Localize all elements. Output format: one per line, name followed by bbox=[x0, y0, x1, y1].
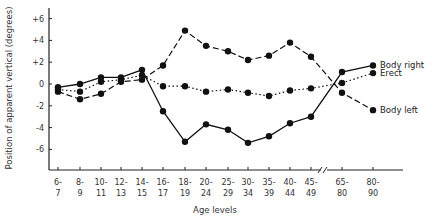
x-tick-label-top: 6- bbox=[54, 178, 62, 187]
y-tick-label: +6 bbox=[32, 15, 44, 24]
x-tick-label-top: 12- bbox=[114, 178, 127, 187]
data-point bbox=[77, 81, 83, 87]
line-chart: +6+4+20-2-4-6 6-78-910-1112-1314-1516-17… bbox=[0, 0, 439, 223]
data-point bbox=[182, 83, 188, 89]
legend-label: Erect bbox=[380, 68, 403, 78]
data-point bbox=[287, 87, 293, 93]
data-point bbox=[225, 127, 231, 133]
y-tick-label: +4 bbox=[32, 36, 44, 45]
x-tick-label-top: 65- bbox=[335, 178, 348, 187]
data-point bbox=[77, 96, 83, 102]
data-point bbox=[266, 93, 272, 99]
x-tick-label-bottom: 17 bbox=[158, 189, 168, 198]
series-line bbox=[58, 31, 373, 111]
data-point bbox=[98, 91, 104, 97]
y-tick-label: 0 bbox=[39, 80, 44, 89]
series-line bbox=[58, 73, 373, 96]
x-tick-label-bottom: 34 bbox=[243, 189, 253, 198]
data-point bbox=[225, 86, 231, 92]
series-body-left: Body left bbox=[55, 27, 419, 115]
data-point bbox=[245, 57, 251, 63]
data-point bbox=[308, 54, 314, 60]
x-tick-label-bottom: 15 bbox=[137, 189, 147, 198]
x-tick-label-top: 35- bbox=[262, 178, 275, 187]
data-point bbox=[370, 70, 376, 76]
y-axis: +6+4+20-2-4-6 bbox=[32, 8, 52, 170]
y-axis-title: Position of apparent vertical (degrees) bbox=[4, 6, 14, 169]
x-tick-label-bottom: 13 bbox=[116, 189, 126, 198]
data-point bbox=[98, 79, 104, 85]
x-axis-title: Age levels bbox=[193, 205, 237, 215]
x-tick-label-top: 40- bbox=[283, 178, 296, 187]
data-point bbox=[160, 62, 166, 68]
data-point bbox=[308, 114, 314, 120]
data-point bbox=[139, 76, 145, 82]
data-point bbox=[308, 85, 314, 91]
x-tick-label-bottom: 49 bbox=[306, 189, 316, 198]
x-tick-label-bottom: 39 bbox=[264, 189, 274, 198]
data-point bbox=[266, 52, 272, 58]
x-tick-label-bottom: 7 bbox=[55, 189, 60, 198]
x-tick-label-bottom: 9 bbox=[77, 189, 82, 198]
data-point bbox=[339, 80, 345, 86]
x-tick-label-bottom: 44 bbox=[285, 189, 295, 198]
x-axis: 6-78-910-1112-1314-1516-1718-1920-2425-2… bbox=[49, 167, 403, 198]
x-tick-label-top: 8- bbox=[76, 178, 84, 187]
x-tick-label-top: 10- bbox=[94, 178, 107, 187]
data-point bbox=[339, 90, 345, 96]
series-erect: Erect bbox=[55, 68, 403, 99]
x-tick-label-top: 30- bbox=[241, 178, 254, 187]
x-tick-label-top: 25- bbox=[221, 178, 234, 187]
data-point bbox=[245, 140, 251, 146]
x-tick-label-bottom: 90 bbox=[368, 189, 378, 198]
data-point bbox=[139, 67, 145, 73]
data-point bbox=[370, 62, 376, 68]
legend-label: Body left bbox=[380, 105, 419, 115]
x-tick-label-top: 16- bbox=[156, 178, 169, 187]
x-tick-label-bottom: 19 bbox=[180, 189, 190, 198]
y-tick-label: -6 bbox=[36, 145, 44, 154]
axis-break-mark bbox=[323, 167, 327, 173]
x-tick-label-bottom: 24 bbox=[201, 189, 211, 198]
data-point bbox=[77, 88, 83, 94]
data-point bbox=[160, 83, 166, 89]
data-point bbox=[266, 133, 272, 139]
data-point bbox=[55, 88, 61, 94]
series-body-right: Body right bbox=[55, 60, 425, 146]
data-point bbox=[118, 79, 124, 85]
data-point bbox=[287, 120, 293, 126]
data-point bbox=[182, 139, 188, 145]
y-tick-label: +2 bbox=[32, 58, 44, 67]
series-layer: Body rightErectBody left bbox=[55, 27, 425, 146]
x-tick-label-top: 18- bbox=[178, 178, 191, 187]
series-line bbox=[58, 65, 373, 142]
x-tick-label-top: 45- bbox=[304, 178, 317, 187]
x-tick-label-top: 80- bbox=[366, 178, 379, 187]
data-point bbox=[287, 39, 293, 45]
data-point bbox=[225, 48, 231, 54]
x-tick-label-bottom: 29 bbox=[223, 189, 233, 198]
data-point bbox=[370, 107, 376, 113]
data-point bbox=[245, 90, 251, 96]
x-tick-label-bottom: 80 bbox=[337, 189, 347, 198]
x-tick-label-top: 14- bbox=[135, 178, 148, 187]
x-tick-label-top: 20- bbox=[199, 178, 212, 187]
data-point bbox=[182, 27, 188, 33]
data-point bbox=[160, 108, 166, 114]
data-point bbox=[203, 43, 209, 49]
data-point bbox=[339, 69, 345, 75]
data-point bbox=[203, 88, 209, 94]
x-tick-label-bottom: 11 bbox=[96, 189, 106, 198]
data-point bbox=[203, 121, 209, 127]
y-tick-label: -4 bbox=[36, 124, 44, 133]
y-tick-label: -2 bbox=[36, 102, 44, 111]
